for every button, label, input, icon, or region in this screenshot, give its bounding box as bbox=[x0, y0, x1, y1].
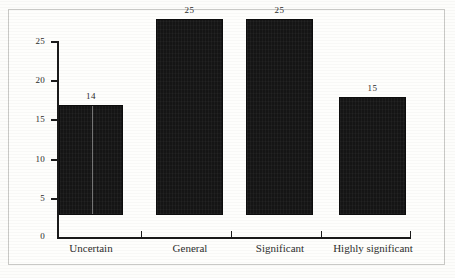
y-tick-label-5: 5 bbox=[40, 194, 45, 203]
y-tick-label-15: 15 bbox=[35, 115, 45, 124]
x-tick-1 bbox=[141, 231, 142, 239]
x-tick-3 bbox=[321, 231, 322, 239]
y-tick-label-10: 10 bbox=[35, 155, 45, 164]
chart-frame: 25 20 15 10 5 0 14 bbox=[8, 9, 445, 265]
screenshot-root: 25 20 15 10 5 0 14 bbox=[0, 0, 455, 278]
plot-area: 25 20 15 10 5 0 14 bbox=[9, 10, 446, 266]
bar-general[interactable]: 25 bbox=[156, 19, 223, 215]
y-tick-25: 25 bbox=[51, 41, 59, 43]
y-tick-10: 10 bbox=[51, 159, 59, 161]
y-tick-20: 20 bbox=[51, 80, 59, 82]
x-tick-4 bbox=[410, 231, 411, 239]
bar-highly-significant[interactable]: 15 bbox=[339, 97, 406, 215]
bar-significant[interactable]: 25 bbox=[246, 19, 313, 215]
x-axis-line bbox=[57, 237, 411, 239]
x-label-significant: Significant bbox=[256, 243, 304, 254]
x-label-general: General bbox=[173, 243, 208, 254]
y-tick-label-0: 0 bbox=[40, 232, 45, 241]
bar-value-highly-significant: 15 bbox=[368, 84, 378, 93]
bar-value-general: 25 bbox=[185, 6, 195, 15]
bar-uncertain[interactable]: 14 bbox=[59, 105, 123, 215]
x-label-uncertain: Uncertain bbox=[69, 243, 112, 254]
x-tick-2 bbox=[231, 231, 232, 239]
y-tick-15: 15 bbox=[51, 119, 59, 121]
bar-value-uncertain: 14 bbox=[86, 92, 96, 101]
y-tick-5: 5 bbox=[51, 198, 59, 200]
y-tick-label-20: 20 bbox=[35, 76, 45, 85]
y-tick-label-25: 25 bbox=[35, 37, 45, 46]
x-label-highly-significant: Highly significant bbox=[333, 243, 413, 254]
bar-value-significant: 25 bbox=[275, 6, 285, 15]
